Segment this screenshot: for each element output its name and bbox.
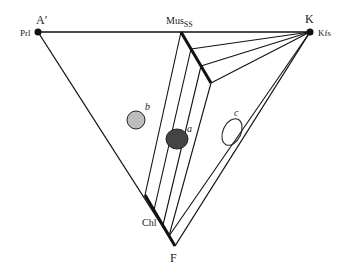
kfs-label: Kfs [318,28,331,38]
akf-ternary-diagram: A′ Prl MusSS K Kfs Chl F b a c [0,0,355,275]
chl-label: Chl [142,217,157,228]
tie-lines-chl-kfs [169,32,310,236]
vertex-a-point [35,29,42,36]
field-c [218,116,246,149]
vertex-f-label: F [170,251,177,265]
vertex-a-label: A′ [36,13,48,27]
field-b [127,111,145,129]
field-a-label: a [187,123,192,134]
vertex-k-point [307,29,314,36]
field-c-label: c [234,107,239,118]
field-a [166,129,188,149]
mus-label: MusSS [166,15,193,29]
field-b-label: b [145,101,150,112]
prl-label: Prl [20,28,31,38]
vertex-k-label: K [305,12,314,26]
